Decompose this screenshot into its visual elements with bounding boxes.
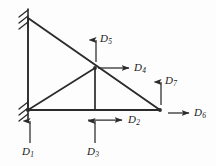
dof-d4-label: D4 xyxy=(134,62,146,73)
dof-d5-label: D5 xyxy=(100,33,112,44)
joint-middle-top xyxy=(93,66,97,70)
dof-d7-label: D7 xyxy=(165,75,177,86)
dof-arrows xyxy=(30,40,189,143)
truss-drawing-canvas xyxy=(0,0,216,166)
dof-d2-label: D2 xyxy=(128,114,140,125)
joint-bottom-left xyxy=(26,108,30,112)
dof-d1-label: D1 xyxy=(22,146,34,157)
supports xyxy=(19,9,28,121)
dof-d3-label: D3 xyxy=(87,146,99,157)
truss-diagram-figure: D1 D2 D3 D4 D5 D6 D7 xyxy=(0,0,216,166)
member-diagonal-web xyxy=(28,68,95,110)
dof-d6-label: D6 xyxy=(194,107,206,118)
joint-bottom-right xyxy=(158,108,162,112)
support-top-left xyxy=(19,9,28,29)
